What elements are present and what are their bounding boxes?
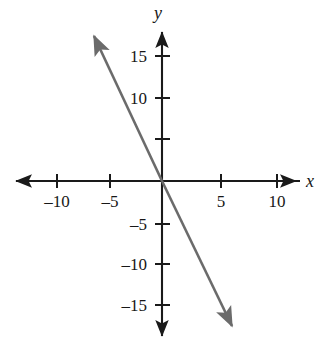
line-upper-left-ray (94, 36, 162, 181)
y-tick-label--15: –15 (121, 296, 148, 315)
y-tick-label--5: –5 (129, 215, 147, 234)
y-tick-label-10: 10 (130, 89, 147, 108)
x-tick-label--5: –5 (101, 192, 119, 211)
coordinate-plane-svg: –10 –5 5 10 15 10 –5 –10 –15 x y (0, 0, 324, 355)
graph-figure: –10 –5 5 10 15 10 –5 –10 –15 x y (0, 0, 324, 355)
x-tick-label-10: 10 (269, 192, 286, 211)
y-axis-label: y (152, 3, 162, 23)
y-tick-label-15: 15 (130, 47, 147, 66)
x-tick-label--10: –10 (43, 192, 70, 211)
x-axis (16, 174, 300, 188)
x-axis-label: x (305, 171, 314, 191)
y-tick-label--10: –10 (121, 255, 148, 274)
x-tick-label-5: 5 (217, 192, 226, 211)
